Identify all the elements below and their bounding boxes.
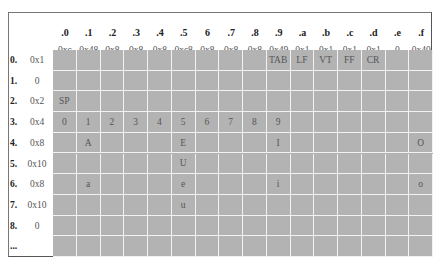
table-cell: 3 [124, 112, 148, 133]
table-cell [243, 236, 267, 257]
table-cell [172, 236, 196, 257]
table-cell: 9 [267, 112, 291, 133]
table-cell [77, 91, 101, 112]
table-cell [314, 133, 338, 154]
row-value: 0x10 [22, 200, 52, 210]
table-cell [219, 91, 243, 112]
table-cell [53, 174, 77, 195]
row-index: ... [10, 241, 24, 251]
row-value: 0x2 [22, 96, 52, 106]
table-cell [172, 91, 196, 112]
table-cell [172, 216, 196, 237]
table-cell [291, 195, 315, 216]
table-cell [386, 133, 410, 154]
table-cell [77, 216, 101, 237]
table-cell [314, 216, 338, 237]
table-cell [338, 91, 362, 112]
table-cell [267, 71, 291, 92]
table-cell [219, 174, 243, 195]
table-cell [101, 91, 125, 112]
table-cell [386, 91, 410, 112]
table-cell [101, 71, 125, 92]
table-cell: CR [362, 50, 386, 71]
table-cell [291, 112, 315, 133]
table-cell [77, 195, 101, 216]
table-cell [196, 195, 220, 216]
table-cell [362, 174, 386, 195]
table-cell [124, 91, 148, 112]
column-header: .b [314, 27, 338, 38]
table-cell [124, 236, 148, 257]
table-cell [267, 236, 291, 257]
table-cell [314, 236, 338, 257]
table-cell: 7 [219, 112, 243, 133]
row-value: 0 [22, 76, 52, 86]
table-cell [291, 216, 315, 237]
table-cell [362, 236, 386, 257]
column-header: .2 [101, 27, 125, 38]
table-cell [196, 50, 220, 71]
table-cell [148, 216, 172, 237]
table-cell [386, 154, 410, 175]
table-cell [386, 195, 410, 216]
table-cell [148, 236, 172, 257]
table-cell [338, 236, 362, 257]
table-cell [267, 154, 291, 175]
table-cell [101, 195, 125, 216]
table-cell [243, 195, 267, 216]
row-value: 0 [22, 221, 52, 231]
table-cell [196, 91, 220, 112]
table-cell [101, 174, 125, 195]
table-cell [362, 71, 386, 92]
table-cell [124, 216, 148, 237]
table-cell [409, 91, 433, 112]
table-cell [53, 195, 77, 216]
table-cell [124, 50, 148, 71]
row-value: 0x4 [22, 117, 52, 127]
table-cell [243, 91, 267, 112]
table-cell [291, 154, 315, 175]
table-cell: 5 [172, 112, 196, 133]
row-value: 0x10 [22, 159, 52, 169]
table-cell [148, 174, 172, 195]
table-cell [243, 154, 267, 175]
table-cell [196, 174, 220, 195]
table-cell [148, 195, 172, 216]
table-cell [386, 236, 410, 257]
table-cell [243, 71, 267, 92]
table-cell [314, 154, 338, 175]
table-cell [409, 71, 433, 92]
table-cell [53, 133, 77, 154]
table-cell: u [172, 195, 196, 216]
table-cell [219, 50, 243, 71]
column-header: .d [362, 27, 386, 38]
table-cell [267, 195, 291, 216]
table-cell: 8 [243, 112, 267, 133]
table-cell [386, 50, 410, 71]
table-cell [362, 154, 386, 175]
table-cell [101, 154, 125, 175]
table-cell [386, 71, 410, 92]
table-cell [386, 174, 410, 195]
table-cell [362, 133, 386, 154]
table-cell: 6 [196, 112, 220, 133]
table-cell [124, 71, 148, 92]
table-cell [362, 112, 386, 133]
table-cell [77, 154, 101, 175]
table-cell [338, 216, 362, 237]
table-cell [362, 91, 386, 112]
table-cell [314, 112, 338, 133]
column-header: .3 [124, 27, 148, 38]
table-cell [101, 133, 125, 154]
table-cell [338, 133, 362, 154]
table-cell [409, 154, 433, 175]
cell-grid: TABLFVTFFCRSP0123456789AEIOUaeiou [53, 50, 433, 257]
table-cell [291, 91, 315, 112]
table-cell: 0 [53, 112, 77, 133]
table-cell: o [409, 174, 433, 195]
table-cell [219, 216, 243, 237]
table-cell: TAB [267, 50, 291, 71]
table-cell [243, 174, 267, 195]
table-cell [196, 71, 220, 92]
table-cell: U [172, 154, 196, 175]
